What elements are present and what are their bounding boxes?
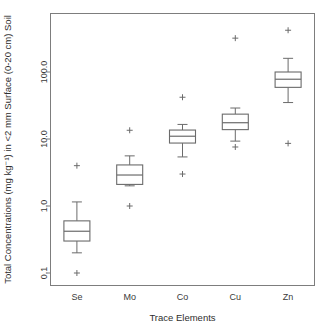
x-tick-label-3: Cu	[230, 292, 242, 302]
y-tick-label-3: 100.0	[39, 61, 49, 84]
outlier-Se-1	[74, 163, 80, 169]
outlier-Mo-0	[127, 203, 133, 209]
x-tick-label-1: Mo	[123, 292, 136, 302]
y-axis-title: Total Concentrations (mg kg⁻¹) in <2 mm …	[2, 15, 13, 284]
y-tick-label-2: 10.0	[39, 130, 49, 148]
x-axis-title: Trace Elements	[149, 312, 215, 323]
outlier-Cu-0	[232, 144, 238, 150]
x-tick-label-4: Zn	[283, 292, 294, 302]
outlier-Co-0	[180, 171, 186, 177]
outlier-Se-0	[74, 270, 80, 276]
plot-svg: 0.11.010.0100.0SeMoCoCuZnTrace ElementsT…	[0, 0, 325, 326]
box-group-Se	[64, 163, 90, 276]
box-Cu	[222, 114, 248, 129]
outlier-Zn-1	[285, 27, 291, 33]
x-tick-label-0: Se	[71, 292, 82, 302]
box-group-Co	[170, 94, 196, 177]
box-layer	[64, 27, 301, 276]
outlier-Cu-1	[232, 35, 238, 41]
x-tick-label-2: Co	[177, 292, 189, 302]
y-tick-label-0: 0.1	[39, 267, 49, 280]
y-tick-label-1: 1.0	[39, 200, 49, 213]
boxplot-chart: 0.11.010.0100.0SeMoCoCuZnTrace ElementsT…	[0, 0, 325, 326]
box-group-Zn	[275, 27, 301, 146]
label-layer: 0.11.010.0100.0SeMoCoCuZnTrace ElementsT…	[2, 15, 293, 323]
box-group-Cu	[222, 35, 248, 150]
axis-layer	[47, 14, 315, 286]
outlier-Mo-1	[127, 127, 133, 133]
outlier-Zn-0	[285, 140, 291, 146]
box-group-Mo	[117, 127, 143, 209]
outlier-Co-1	[180, 94, 186, 100]
